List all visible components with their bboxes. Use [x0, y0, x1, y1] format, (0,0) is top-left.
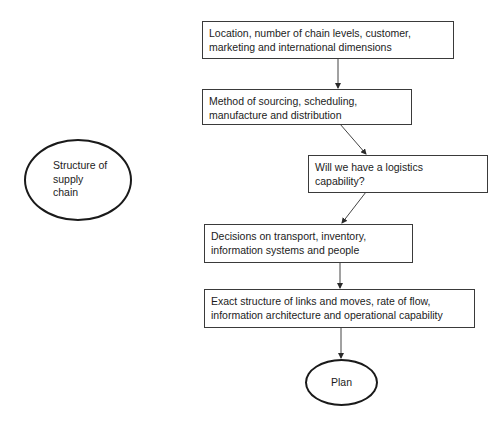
arrow-step2-to-step3 — [340, 124, 366, 154]
plan-node: Plan — [305, 359, 378, 406]
step-logistics-capability-question: Will we have a logistics capability? — [308, 155, 488, 193]
step-label-line: marketing and international dimensions — [209, 41, 447, 55]
node-label-line: Structure of — [53, 159, 107, 173]
step-label-line: Decisions on transport, inventory, — [211, 230, 406, 244]
step-location-dimensions: Location, number of chain levels, custom… — [202, 21, 454, 59]
step-label-line: information systems and people — [211, 244, 406, 258]
step-transport-inventory-decisions: Decisions on transport, inventory, infor… — [204, 224, 413, 263]
step-label-line: manufacture and distribution — [209, 109, 405, 123]
supply-chain-structure-node: Structure of supply chain — [24, 139, 132, 221]
step-label-line: Method of sourcing, scheduling, — [209, 95, 405, 109]
step-label-line: Will we have a logistics — [315, 161, 481, 175]
step-label-line: capability? — [315, 175, 481, 189]
step-label-line: information architecture and operational… — [211, 309, 468, 323]
step-label-line: Location, number of chain levels, custom… — [209, 27, 447, 41]
step-label-line: Exact structure of links and moves, rate… — [211, 295, 468, 309]
step-exact-structure: Exact structure of links and moves, rate… — [204, 289, 475, 328]
node-label-line: chain — [53, 186, 107, 200]
step-sourcing-method: Method of sourcing, scheduling, manufact… — [202, 89, 412, 125]
plan-label: Plan — [331, 376, 352, 390]
arrow-step3-to-step4 — [342, 192, 366, 223]
node-label-line: supply — [53, 173, 107, 187]
